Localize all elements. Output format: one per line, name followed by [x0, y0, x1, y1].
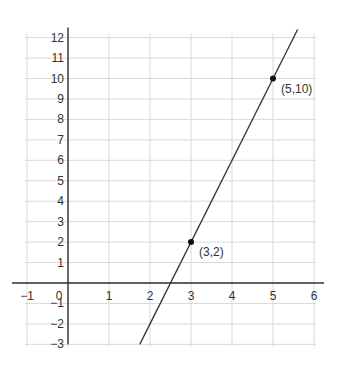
- y-tick-label: 11: [52, 51, 65, 65]
- y-tick-label: 7: [57, 133, 64, 147]
- data-point: [270, 76, 276, 82]
- x-tick-label: −1: [20, 289, 34, 303]
- x-tick-labels: −10123456: [20, 289, 318, 303]
- x-tick-label: 4: [229, 289, 236, 303]
- y-tick-label: 5: [57, 174, 64, 188]
- y-tick-label: 8: [57, 112, 64, 126]
- data-point: [188, 239, 194, 245]
- x-tick-label: 1: [106, 289, 113, 303]
- y-tick-label: −3: [50, 337, 64, 351]
- point-label: (5,10): [281, 82, 312, 96]
- y-tick-label: 4: [57, 194, 64, 208]
- y-tick-label: 10: [51, 72, 65, 86]
- y-tick-label: −1: [50, 296, 64, 310]
- y-tick-label: 9: [57, 92, 64, 106]
- y-tick-label: 3: [57, 215, 64, 229]
- labeled-points: (3,2)(5,10): [188, 76, 312, 260]
- y-tick-label: −2: [50, 317, 64, 331]
- y-tick-label: 1: [57, 256, 64, 270]
- y-tick-label: 6: [57, 153, 64, 167]
- coordinate-plane-chart: −10123456 121110987654321−1−2−3 (3,2)(5,…: [0, 0, 342, 389]
- point-label: (3,2): [199, 245, 224, 259]
- x-tick-label: 5: [270, 289, 277, 303]
- x-tick-label: 3: [188, 289, 195, 303]
- x-tick-label: 6: [311, 289, 318, 303]
- y-tick-labels: 121110987654321−1−2−3: [50, 31, 64, 352]
- y-tick-label: 12: [51, 31, 65, 45]
- y-tick-label: 2: [57, 235, 64, 249]
- x-tick-label: 2: [147, 289, 154, 303]
